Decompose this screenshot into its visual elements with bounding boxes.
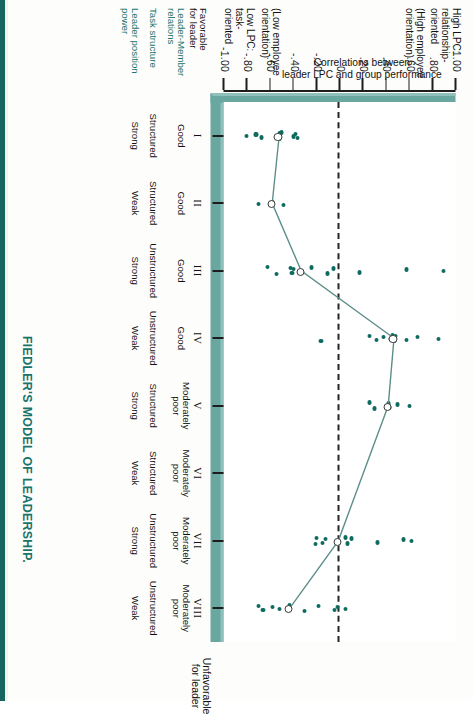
axis-anchor-line: orientation) xyxy=(259,8,270,94)
data-point xyxy=(325,271,329,275)
unfavorable-for-leader-label: Unfavorablefor leader xyxy=(188,646,211,718)
octant-header-vi: VI xyxy=(191,443,203,503)
data-point xyxy=(331,266,335,270)
table-cell-line: Strong xyxy=(129,237,139,303)
row-label: Task structure xyxy=(147,8,157,100)
table-cell: Structured xyxy=(147,372,157,438)
table-cell: Good xyxy=(175,170,185,236)
data-point xyxy=(367,400,371,404)
table-cell-line: Moderately xyxy=(180,575,190,641)
axis-anchor-high-lpc: High LPC:relationship-oriented xyxy=(428,8,461,94)
table-cell-line: Structured xyxy=(147,102,157,168)
table-cell-line: Good xyxy=(175,170,185,236)
fiedler-model-figure: 1.00.80.60.40.200-.20-.40-.60-.80-1.00 C… xyxy=(4,6,469,696)
baseline-band-bevel xyxy=(210,94,223,103)
data-point xyxy=(395,402,399,406)
table-cell: Unstructured xyxy=(147,507,157,573)
favorable-for-leader-label-line: Favorable xyxy=(197,8,207,86)
data-point xyxy=(270,604,274,608)
axis-anchor-low-employee: (Low employeeorientation) xyxy=(259,8,281,94)
data-point xyxy=(320,540,324,544)
table-cell-line: Strong xyxy=(129,102,139,168)
data-point xyxy=(343,606,347,610)
table-cell: Unstructured xyxy=(147,575,157,641)
table-cell-line: poor xyxy=(169,575,179,641)
octant-tick xyxy=(212,607,223,609)
data-point xyxy=(441,269,445,273)
table-cell-line: Unstructured xyxy=(147,237,157,303)
table-cell: Strong xyxy=(129,507,139,573)
data-point xyxy=(357,270,361,274)
data-point xyxy=(375,540,379,544)
data-point xyxy=(404,267,408,271)
octant-tick xyxy=(212,539,223,541)
table-cell-line: Strong xyxy=(129,372,139,438)
data-point xyxy=(343,535,347,539)
octant-header-iii: III xyxy=(191,240,203,300)
data-point xyxy=(314,536,318,540)
table-cell-line: poor xyxy=(169,372,179,438)
data-point xyxy=(345,541,349,545)
octant-header-v: V xyxy=(191,375,203,435)
data-point xyxy=(372,406,376,410)
row-label: Leader-Member relations xyxy=(164,8,185,100)
data-point xyxy=(260,608,264,612)
table-cell-line: Unstructured xyxy=(147,507,157,573)
data-point xyxy=(274,271,278,275)
table-cell-line: Good xyxy=(175,237,185,303)
octant-tick xyxy=(212,269,223,271)
table-cell-line: Weak xyxy=(129,305,139,371)
axis-anchor-line: relationship- xyxy=(439,8,450,94)
axis-anchor-high-employee: (High employeeorientation) xyxy=(403,8,425,94)
axis-anchor-line: Low LPC: xyxy=(244,8,255,94)
data-point xyxy=(436,336,440,340)
data-point xyxy=(409,539,413,543)
data-point xyxy=(281,202,285,206)
table-cell-line: Weak xyxy=(129,440,139,506)
data-point xyxy=(318,339,322,343)
baseline-band-highlight xyxy=(220,102,223,642)
axis-anchor-line: High LPC: xyxy=(450,8,461,94)
median-marker xyxy=(284,605,292,613)
table-cell-line: poor xyxy=(169,440,179,506)
table-cell-line: Weak xyxy=(129,170,139,236)
row-label: Leader position power xyxy=(118,8,139,100)
axis-anchor-line: task- xyxy=(233,8,244,94)
table-cell: Structured xyxy=(147,440,157,506)
data-point xyxy=(302,608,306,612)
table-cell: Weak xyxy=(129,575,139,641)
table-cell-line: Structured xyxy=(147,170,157,236)
data-point xyxy=(244,134,248,138)
data-point xyxy=(313,541,317,545)
table-cell: Strong xyxy=(129,102,139,168)
data-point xyxy=(295,135,299,139)
table-cell: Good xyxy=(175,102,185,168)
data-point xyxy=(367,333,371,337)
table-cell: Moderatelypoor xyxy=(169,507,190,573)
unfavorable-for-leader-label-line: Unfavorable xyxy=(200,646,211,718)
octant-tick xyxy=(212,337,223,339)
axis-anchor-line: oriented xyxy=(428,8,439,94)
table-cell-line: Unstructured xyxy=(147,575,157,641)
table-cell: Unstructured xyxy=(147,305,157,371)
favorable-for-leader-label: Favorablefor leader xyxy=(186,8,207,86)
table-cell-line: Moderately xyxy=(180,440,190,506)
octant-header-vii: VII xyxy=(191,510,203,570)
table-cell: Moderatelypoor xyxy=(169,372,190,438)
data-point xyxy=(332,607,336,611)
table-cell-line: Weak xyxy=(129,575,139,641)
median-marker xyxy=(333,537,341,545)
data-point xyxy=(256,603,260,607)
data-point xyxy=(349,536,353,540)
table-cell: Structured xyxy=(147,102,157,168)
favorable-for-leader-label-line: for leader xyxy=(186,8,196,86)
table-cell: Moderatelypoor xyxy=(169,440,190,506)
table-cell-line: poor xyxy=(169,507,179,573)
data-point xyxy=(309,265,313,269)
axis-anchor-line: oriented xyxy=(222,8,233,94)
table-cell: Unstructured xyxy=(147,237,157,303)
median-marker xyxy=(267,200,275,208)
table-cell: Weak xyxy=(129,170,139,236)
data-point xyxy=(401,537,405,541)
data-point xyxy=(289,270,293,274)
